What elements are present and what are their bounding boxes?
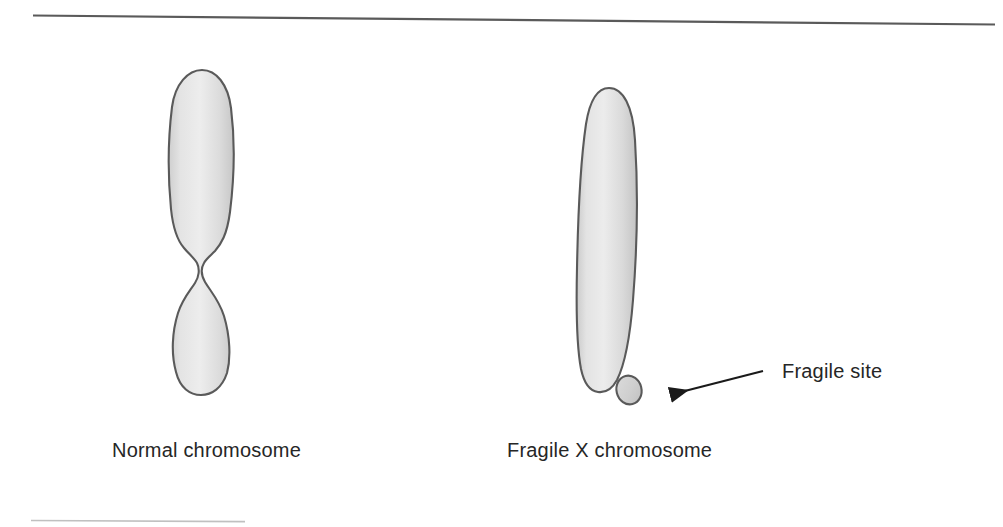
normal-chromosome-label: Normal chromosome — [112, 439, 301, 462]
fragile-site-arrow — [673, 371, 763, 394]
normal-chromosome-group — [169, 70, 234, 395]
figure-container: Normal chromosome Fragile X chromosome F… — [0, 0, 1003, 527]
fragile-x-chromosome-group — [577, 88, 645, 407]
fragile-x-chromosome-label: Fragile X chromosome — [507, 439, 712, 462]
normal-chromosome-shape — [169, 70, 234, 395]
fragile-x-chromosome-shape — [577, 88, 637, 392]
top-horizontal-rule — [33, 16, 995, 25]
fragile-site-label: Fragile site — [782, 360, 882, 383]
bottom-horizontal-rule — [31, 521, 245, 522]
